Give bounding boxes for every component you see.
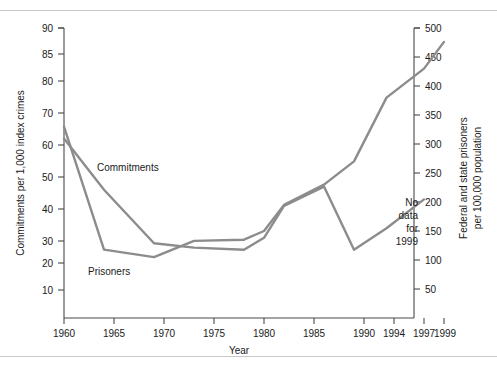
right-axis-ticks <box>414 28 420 289</box>
bottom-tick-label-1960: 1960 <box>53 328 76 339</box>
left-axis-tick-labels: 90 85 80 70 60 50 40 30 20 10 <box>42 23 54 296</box>
bottom-axis-ticks <box>64 318 444 324</box>
x-axis-title: Year <box>229 345 250 356</box>
right-axis-title-line1: Federal and state prisoners <box>458 117 469 239</box>
commitments-line <box>64 139 424 250</box>
right-tick-label-400: 400 <box>425 81 442 92</box>
left-axis-line <box>58 28 64 318</box>
right-axis-title-line2: per 100,000 population <box>472 127 483 229</box>
data-series-group <box>64 42 444 257</box>
left-axis-ticks <box>58 28 64 290</box>
bottom-axis: 1960 1965 1970 1975 1980 1985 1990 1994 … <box>53 318 457 356</box>
note-line-3: for <box>406 223 418 234</box>
bottom-axis-tick-labels: 1960 1965 1970 1975 1980 1985 1990 1994 … <box>53 328 457 339</box>
prisoners-series-label: Prisoners <box>88 266 130 277</box>
bottom-tick-label-1975: 1975 <box>203 328 226 339</box>
bottom-tick-label-1980: 1980 <box>253 328 276 339</box>
bottom-tick-label-1970: 1970 <box>153 328 176 339</box>
bottom-tick-label-1994: 1994 <box>383 328 406 339</box>
note-line-4: 1999 <box>396 236 419 247</box>
bottom-tick-label-1997: 1997 <box>413 328 436 339</box>
left-tick-label-30: 30 <box>42 236 54 247</box>
left-tick-label-70: 70 <box>42 108 54 119</box>
bottom-tick-label-1999: 1999 <box>434 328 457 339</box>
left-tick-label-85: 85 <box>42 49 54 60</box>
left-axis-title: Commitments per 1,000 index crimes <box>15 90 26 256</box>
left-tick-label-20: 20 <box>42 258 54 269</box>
no-data-note: No data for 1999 <box>396 197 419 247</box>
commitments-series-label: Commitments <box>97 162 159 173</box>
bottom-tick-label-1965: 1965 <box>103 328 126 339</box>
note-line-2: data <box>399 210 419 221</box>
chart-figure: 90 85 80 70 60 50 40 30 20 10 Commitment… <box>0 0 497 367</box>
bottom-tick-label-1990: 1990 <box>353 328 376 339</box>
right-tick-label-100: 100 <box>425 255 442 266</box>
bottom-tick-label-1985: 1985 <box>303 328 326 339</box>
right-tick-label-50: 50 <box>425 284 437 295</box>
right-tick-label-300: 300 <box>425 139 442 150</box>
left-tick-label-90: 90 <box>42 23 54 34</box>
right-tick-label-200: 200 <box>425 197 442 208</box>
right-tick-label-500: 500 <box>425 23 442 34</box>
right-tick-label-150: 150 <box>425 226 442 237</box>
right-tick-label-350: 350 <box>425 110 442 121</box>
left-tick-label-10: 10 <box>42 285 54 296</box>
note-line-1: No <box>405 197 418 208</box>
prisoners-line <box>64 42 444 257</box>
right-tick-label-250: 250 <box>425 168 442 179</box>
chart-canvas: 90 85 80 70 60 50 40 30 20 10 Commitment… <box>0 0 497 367</box>
left-tick-label-80: 80 <box>42 76 54 87</box>
left-axis: 90 85 80 70 60 50 40 30 20 10 Commitment… <box>15 23 64 318</box>
left-tick-label-60: 60 <box>42 140 54 151</box>
left-tick-label-40: 40 <box>42 204 54 215</box>
left-tick-label-50: 50 <box>42 172 54 183</box>
